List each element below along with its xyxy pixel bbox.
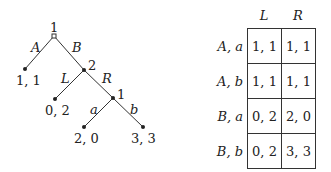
matrix-cell: 1, 1	[248, 64, 282, 99]
table-row: 1, 1 1, 1	[248, 64, 316, 99]
player2-node-marker	[82, 68, 86, 72]
edge-label-B: B	[72, 41, 82, 54]
table-row: 1, 1 1, 1	[248, 29, 316, 64]
row-header-Bb: B, b	[203, 144, 243, 159]
edge-label-b: b	[130, 103, 138, 116]
matrix-cell: 0, 2	[248, 99, 282, 134]
row-header-Aa: A, a	[203, 39, 243, 54]
payoff-leaf-A: 1, 1	[16, 74, 41, 87]
node2-player-label: 2	[88, 59, 96, 72]
leaf-b-marker	[141, 125, 145, 129]
leaf-a-marker	[82, 125, 86, 129]
edge-label-L: L	[61, 72, 70, 85]
column-header-R: R	[281, 8, 315, 23]
edge-label-A: A	[31, 41, 40, 54]
node3-player-label: 1	[117, 88, 125, 101]
payoff-leaf-b: 3, 3	[131, 132, 156, 145]
table-row: 0, 2 3, 3	[248, 134, 316, 169]
matrix-cell: 1, 1	[282, 29, 316, 64]
matrix-cell: 3, 3	[282, 134, 316, 169]
leaf-A-marker	[23, 67, 27, 71]
row-header-Ab: A, b	[203, 74, 243, 89]
matrix-cell: 1, 1	[248, 29, 282, 64]
root-player-label: 1	[50, 21, 58, 34]
matrix-cell: 2, 0	[282, 99, 316, 134]
player1-second-node-marker	[111, 96, 115, 100]
edge-label-R: R	[102, 72, 112, 85]
leaf-L-marker	[53, 97, 57, 101]
row-header-Ba: B, a	[203, 109, 243, 124]
payoff-leaf-a: 2, 0	[74, 132, 99, 145]
table-row: 0, 2 2, 0	[248, 99, 316, 134]
edge-label-a: a	[90, 103, 98, 116]
matrix-cell: 0, 2	[248, 134, 282, 169]
matrix-cell: 1, 1	[282, 64, 316, 99]
payoff-leaf-L: 0, 2	[45, 104, 70, 117]
column-header-L: L	[247, 8, 281, 23]
payoff-matrix: 1, 1 1, 1 1, 1 1, 1 0, 2 2, 0 0, 2 3, 3	[247, 28, 316, 169]
